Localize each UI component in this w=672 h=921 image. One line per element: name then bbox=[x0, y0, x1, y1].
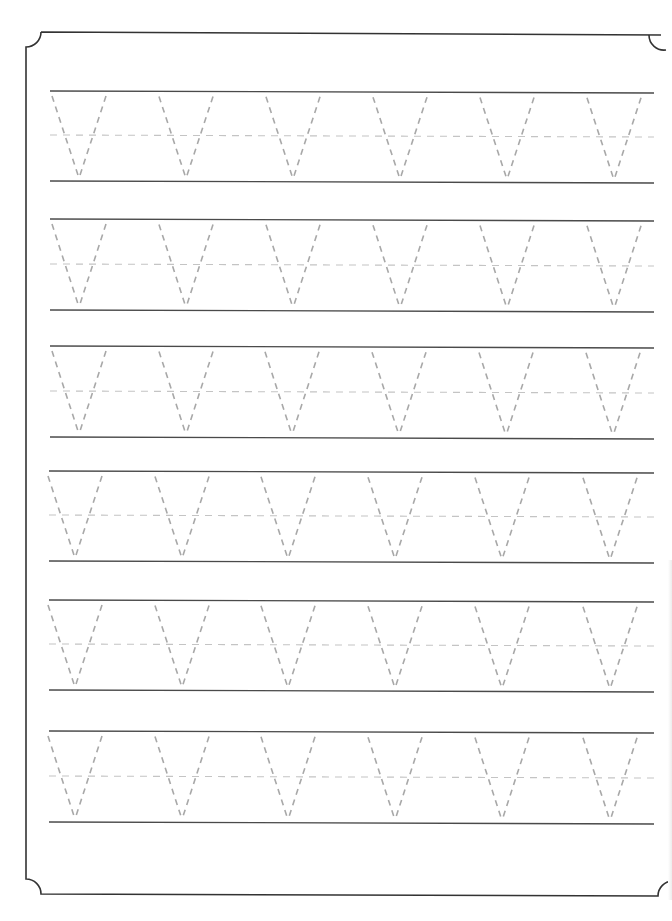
v-right-stroke bbox=[79, 96, 106, 178]
v-right-stroke bbox=[502, 737, 529, 820]
practice-row bbox=[50, 219, 654, 312]
v-left-stroke bbox=[266, 97, 293, 179]
v-right-stroke bbox=[502, 477, 529, 559]
trace-letter-v bbox=[159, 351, 213, 434]
v-left-stroke bbox=[583, 607, 610, 689]
v-left-stroke bbox=[48, 476, 75, 558]
top-guide-line bbox=[49, 731, 654, 733]
trace-letter-v bbox=[587, 226, 641, 309]
v-right-stroke bbox=[79, 224, 106, 307]
dashed-midline bbox=[50, 391, 654, 393]
trace-letter-v bbox=[587, 98, 641, 180]
dashed-midline bbox=[50, 264, 654, 266]
trace-letter-v bbox=[266, 225, 320, 308]
trace-letter-v bbox=[475, 606, 529, 688]
v-left-stroke bbox=[52, 96, 79, 178]
top-guide-line bbox=[50, 219, 654, 221]
practice-row bbox=[48, 731, 654, 824]
v-left-stroke bbox=[480, 98, 507, 180]
trace-letter-v bbox=[583, 607, 637, 689]
dashed-midline bbox=[50, 135, 654, 137]
v-left-stroke bbox=[587, 226, 614, 309]
v-left-stroke bbox=[368, 606, 395, 688]
v-left-stroke bbox=[480, 226, 507, 309]
v-right-stroke bbox=[186, 96, 213, 178]
v-right-stroke bbox=[288, 737, 315, 820]
border-corner-notch bbox=[649, 35, 666, 50]
v-right-stroke bbox=[610, 478, 637, 560]
trace-letter-v bbox=[52, 224, 106, 307]
v-left-stroke bbox=[583, 478, 610, 560]
v-right-stroke bbox=[395, 606, 422, 688]
v-right-stroke bbox=[79, 351, 106, 434]
v-right-stroke bbox=[610, 607, 637, 689]
v-left-stroke bbox=[159, 351, 186, 434]
v-right-stroke bbox=[288, 606, 315, 688]
v-left-stroke bbox=[368, 737, 395, 820]
v-right-stroke bbox=[293, 225, 320, 308]
v-left-stroke bbox=[52, 224, 79, 307]
top-guide-line bbox=[50, 91, 654, 93]
v-left-stroke bbox=[266, 225, 293, 308]
v-right-stroke bbox=[610, 738, 637, 821]
bottom-guide-line bbox=[50, 181, 654, 183]
trace-letter-v bbox=[583, 738, 637, 821]
v-left-stroke bbox=[155, 605, 182, 687]
v-left-stroke bbox=[48, 605, 75, 687]
v-left-stroke bbox=[155, 476, 182, 558]
v-right-stroke bbox=[399, 352, 426, 435]
trace-letter-v bbox=[373, 225, 427, 308]
v-right-stroke bbox=[507, 98, 534, 180]
trace-letter-v bbox=[48, 736, 102, 819]
v-right-stroke bbox=[182, 736, 209, 819]
trace-letter-v bbox=[266, 97, 320, 179]
trace-letter-v bbox=[480, 98, 534, 180]
bottom-guide-line bbox=[50, 310, 654, 312]
trace-letter-v bbox=[159, 96, 213, 178]
v-right-stroke bbox=[182, 605, 209, 687]
v-right-stroke bbox=[182, 476, 209, 558]
v-left-stroke bbox=[261, 477, 288, 559]
trace-letter-v bbox=[155, 476, 209, 558]
trace-letter-v bbox=[368, 606, 422, 688]
v-left-stroke bbox=[155, 736, 182, 819]
trace-letter-v bbox=[583, 478, 637, 560]
v-right-stroke bbox=[75, 605, 102, 687]
v-left-stroke bbox=[368, 477, 395, 559]
v-left-stroke bbox=[587, 98, 614, 180]
v-left-stroke bbox=[475, 737, 502, 820]
trace-letter-v bbox=[373, 97, 427, 179]
top-guide-line bbox=[49, 600, 654, 602]
v-right-stroke bbox=[507, 226, 534, 309]
trace-letter-v bbox=[586, 353, 640, 436]
trace-letter-v bbox=[48, 476, 102, 558]
trace-letter-v bbox=[265, 352, 319, 435]
v-right-stroke bbox=[614, 98, 641, 180]
trace-letter-v bbox=[480, 226, 534, 309]
v-right-stroke bbox=[506, 353, 533, 436]
page-border-frame bbox=[26, 32, 672, 896]
v-left-stroke bbox=[159, 224, 186, 307]
bottom-guide-line bbox=[49, 822, 654, 824]
practice-row bbox=[50, 91, 654, 183]
v-right-stroke bbox=[502, 606, 529, 688]
trace-letter-v bbox=[368, 737, 422, 820]
trace-letter-v bbox=[159, 224, 213, 307]
trace-letter-v bbox=[261, 606, 315, 688]
v-right-stroke bbox=[75, 736, 102, 819]
top-guide-line bbox=[49, 471, 654, 473]
v-right-stroke bbox=[614, 226, 641, 309]
trace-letter-v bbox=[155, 736, 209, 819]
trace-letter-v bbox=[475, 477, 529, 559]
v-right-stroke bbox=[186, 351, 213, 434]
v-left-stroke bbox=[373, 97, 400, 179]
dashed-midline bbox=[49, 515, 654, 517]
v-left-stroke bbox=[265, 352, 292, 435]
practice-row bbox=[50, 346, 654, 439]
tracing-worksheet: Letter V tracing practice bbox=[0, 0, 672, 921]
v-right-stroke bbox=[400, 97, 427, 179]
v-right-stroke bbox=[293, 97, 320, 179]
page-edge-shadow bbox=[668, 560, 672, 900]
trace-letter-v bbox=[475, 737, 529, 820]
top-guide-line bbox=[50, 346, 654, 348]
